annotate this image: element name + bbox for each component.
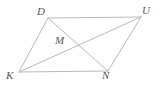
vertex-label-M: M xyxy=(55,35,64,46)
side-KD xyxy=(19,18,48,72)
vertex-label-N: N xyxy=(102,70,109,81)
parallelogram-svg xyxy=(0,0,160,91)
side-NK xyxy=(19,71,108,72)
side-UN xyxy=(108,17,141,71)
side-DU xyxy=(48,17,141,18)
vertex-label-U: U xyxy=(142,5,150,16)
vertex-label-K: K xyxy=(6,70,13,81)
diagonal-KU xyxy=(19,17,141,72)
vertex-label-D: D xyxy=(37,6,45,17)
geometry-figure: D U N K M xyxy=(0,0,160,91)
